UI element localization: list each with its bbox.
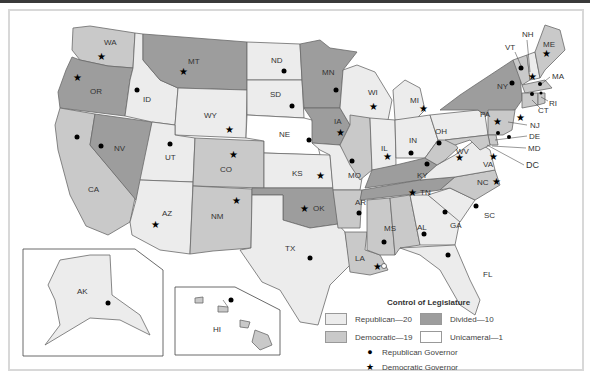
- label-WY: WY: [204, 111, 218, 120]
- legend-label-divided: Divided—10: [450, 315, 494, 324]
- label-CO: CO: [220, 165, 232, 174]
- label-MN: MN: [322, 68, 335, 77]
- dot-icon: [357, 211, 362, 216]
- legend-republican-governor: ● Republican Governor: [364, 347, 458, 357]
- label-SC: SC: [484, 211, 495, 220]
- label-MA: MA: [552, 72, 565, 81]
- state-HI-kauai: [195, 297, 203, 303]
- state-CO: [193, 138, 264, 188]
- star-icon: ★: [336, 127, 345, 138]
- dot-icon: ●: [364, 347, 376, 357]
- dot-icon: [510, 81, 515, 86]
- star-icon: ★: [73, 72, 82, 83]
- state-HI-oahu: [218, 306, 228, 312]
- label-NV: NV: [114, 144, 126, 153]
- dot-icon: [290, 104, 295, 109]
- star-icon: ★: [179, 66, 188, 77]
- label-NJ: NJ: [530, 121, 540, 130]
- label-MS: MS: [384, 224, 396, 233]
- label-MD: MD: [528, 144, 541, 153]
- dot-icon: [350, 159, 355, 164]
- state-AR: [333, 190, 362, 228]
- star-icon: ★: [455, 152, 464, 163]
- star-icon: ★: [369, 101, 378, 112]
- label-OK: OK: [313, 204, 325, 213]
- dot-icon: [474, 204, 479, 209]
- label-OR: OR: [90, 87, 102, 96]
- new-orleans-marker: [382, 264, 387, 269]
- label-UT: UT: [165, 153, 176, 162]
- legend-democratic-governor: ★ Democratic Governor: [364, 362, 458, 372]
- label-GA: GA: [450, 221, 462, 230]
- state-SD: [247, 80, 304, 118]
- star-icon: ★: [316, 170, 325, 181]
- label-AZ: AZ: [162, 209, 172, 218]
- label-IA: IA: [334, 117, 342, 126]
- label-PA: PA: [480, 110, 491, 119]
- label-AK: AK: [77, 287, 88, 296]
- label-FL: FL: [483, 270, 493, 279]
- swatch-democratic: [325, 331, 347, 343]
- legend-label-unicameral: Unicameral—1: [450, 333, 503, 342]
- dot-icon: [308, 256, 313, 261]
- label-ND: ND: [271, 56, 283, 65]
- star-icon: ★: [151, 219, 160, 230]
- label-LA: LA: [355, 254, 365, 263]
- label-OH: OH: [435, 127, 447, 136]
- dot-icon: [530, 92, 534, 96]
- label-MI: MI: [410, 96, 419, 105]
- star-icon: ★: [232, 195, 241, 206]
- dot-icon: [334, 88, 339, 93]
- label-SD: SD: [270, 90, 281, 99]
- swatch-divided: [420, 313, 442, 325]
- dot-icon: [168, 142, 173, 147]
- star-icon: ★: [373, 261, 382, 272]
- label-AL: AL: [417, 223, 427, 232]
- label-WA: WA: [104, 38, 117, 47]
- label-NM: NM: [211, 212, 224, 221]
- dot-icon: [106, 301, 111, 306]
- label-TN: TN: [420, 188, 431, 197]
- dot-icon: [135, 88, 140, 93]
- label-HI: HI: [213, 325, 221, 334]
- star-icon: ★: [408, 187, 417, 198]
- label-DE: DE: [529, 132, 540, 141]
- state-MI: [393, 80, 425, 120]
- label-ID: ID: [143, 95, 151, 104]
- dot-icon: [507, 135, 511, 139]
- star-icon: ★: [489, 151, 498, 162]
- star-icon: ★: [364, 362, 376, 372]
- swatch-republican: [325, 313, 347, 325]
- legend-title: Control of Legislature: [387, 298, 470, 307]
- legend-label-democratic-governor: Democratic Governor: [382, 363, 458, 372]
- star-icon: ★: [383, 151, 392, 162]
- label-IN: IN: [409, 136, 417, 145]
- dot-icon: [446, 253, 451, 258]
- star-icon: ★: [528, 71, 537, 82]
- state-WI: [340, 65, 392, 125]
- dot-icon: [307, 138, 312, 143]
- dot-icon: [540, 92, 543, 95]
- star-icon: ★: [493, 116, 502, 127]
- legend-item-unicameral: Unicameral—1: [420, 331, 503, 343]
- label-TX: TX: [285, 244, 296, 253]
- label-RI: RI: [549, 99, 557, 108]
- star-icon: ★: [300, 203, 309, 214]
- legend-item-republican: Republican—20: [325, 313, 412, 325]
- state-NY: [440, 60, 522, 115]
- dot-icon: [437, 141, 442, 146]
- label-CA: CA: [88, 185, 100, 194]
- dot-icon: [425, 162, 430, 167]
- label-DC: DC: [526, 160, 539, 170]
- label-KS: KS: [292, 169, 303, 178]
- dot-icon: [519, 66, 524, 71]
- label-VT: VT: [505, 43, 515, 52]
- label-WI: WI: [368, 88, 378, 97]
- dot-icon: [409, 151, 414, 156]
- label-AR: AR: [355, 198, 366, 207]
- state-RI: [538, 93, 545, 105]
- dot-icon: [75, 135, 80, 140]
- dot-icon: [422, 232, 427, 237]
- label-NH: NH: [522, 30, 534, 39]
- star-icon: ★: [97, 51, 106, 62]
